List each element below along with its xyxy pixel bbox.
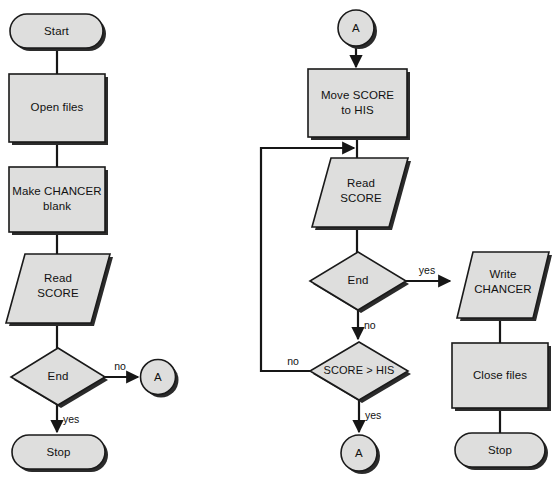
node-connector-a-bottom[interactable]: A [341, 435, 380, 474]
node-end-decision-right[interactable]: End [310, 252, 409, 313]
node-read-score-right-label-line2: SCORE [340, 192, 382, 204]
edge-label-right-score-yes: yes [365, 409, 381, 421]
flowchart-diagram: Start Open files Make CHANCER blank Read… [0, 0, 556, 481]
node-read-score-right[interactable]: Read SCORE [312, 158, 411, 230]
node-write-chancer-label-line1: Write [489, 268, 516, 280]
node-open-files-label: Open files [31, 101, 84, 113]
node-start-label: Start [44, 25, 69, 37]
edge-label-left-end-no: no [114, 360, 126, 372]
node-score-gt-his-decision[interactable]: SCORE > HIS [310, 342, 411, 403]
node-end-decision-left-label: End [48, 370, 69, 382]
flowchart-canvas: Start Open files Make CHANCER blank Read… [0, 0, 556, 481]
node-end-decision-right-label: End [348, 274, 369, 286]
node-stop-left[interactable]: Stop [12, 435, 108, 472]
node-read-score-left[interactable]: Read SCORE [6, 254, 113, 326]
node-connector-a-bottom-label: A [355, 447, 363, 459]
node-end-decision-left[interactable]: End [11, 348, 108, 408]
node-move-score-to-his[interactable]: Move SCORE to HIS [308, 69, 410, 140]
node-write-chancer[interactable]: Write CHANCER [457, 252, 552, 321]
node-stop-left-label: Stop [46, 446, 70, 458]
node-write-chancer-label-line2: CHANCER [474, 283, 532, 295]
edge-label-right-end-no: no [364, 319, 376, 331]
node-connector-a-top[interactable]: A [338, 10, 377, 49]
node-start[interactable]: Start [10, 14, 106, 51]
node-connector-a-left[interactable]: A [141, 360, 179, 398]
node-connector-a-top-label: A [352, 22, 360, 34]
node-close-files-label: Close files [473, 369, 527, 381]
edge-label-right-end-yes: yes [419, 264, 435, 276]
node-move-score-to-his-label-line1: Move SCORE [321, 89, 394, 101]
node-open-files[interactable]: Open files [9, 74, 108, 145]
node-stop-right[interactable]: Stop [455, 433, 548, 470]
edge-label-left-end-yes: yes [63, 413, 79, 425]
node-score-gt-his-decision-label: SCORE > HIS [323, 364, 394, 376]
node-make-chancer-blank-label-line1: Make CHANCER [12, 185, 101, 197]
node-make-chancer-blank-label-line2: blank [43, 200, 71, 212]
node-connector-a-left-label: A [154, 371, 162, 383]
node-stop-right-label: Stop [488, 444, 512, 456]
edge-label-right-score-no: no [287, 355, 299, 367]
node-read-score-left-label-line2: SCORE [37, 287, 79, 299]
node-move-score-to-his-label-line2: to HIS [341, 104, 374, 116]
node-read-score-right-label-line1: Read [347, 177, 375, 189]
node-make-chancer-blank[interactable]: Make CHANCER blank [9, 167, 108, 235]
node-close-files[interactable]: Close files [452, 343, 551, 411]
node-read-score-left-label-line1: Read [44, 272, 72, 284]
